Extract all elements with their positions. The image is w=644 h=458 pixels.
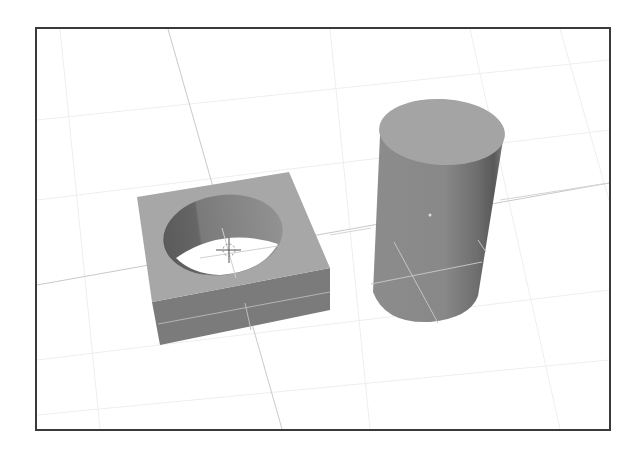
block-with-hole[interactable] xyxy=(137,172,330,345)
floor-grid xyxy=(37,29,609,429)
axis-line-right xyxy=(500,183,609,200)
cylinder[interactable] xyxy=(371,96,507,323)
3d-viewport[interactable] xyxy=(0,0,644,458)
axis-lines xyxy=(37,29,609,429)
object-origin-dot xyxy=(429,214,432,217)
